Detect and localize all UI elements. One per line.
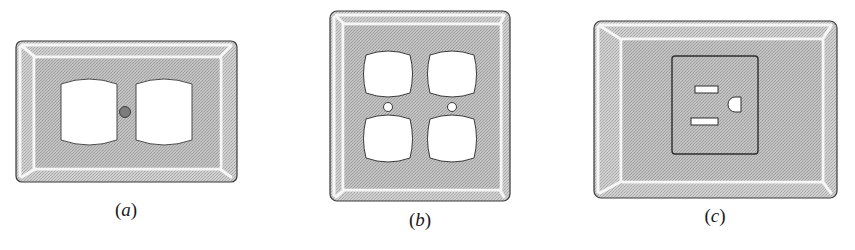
receptacle-opening [136,79,192,145]
receptacle-opening [428,51,477,97]
plate-b-inner [345,26,500,189]
caption-letter: b [415,209,425,230]
receptacle-slot-hot [695,86,718,93]
grounded-receptacle [672,56,758,154]
receptacle-opening [364,115,413,162]
receptacle-opening [364,51,413,97]
caption-a: (a) [115,199,137,221]
receptacle-opening [61,79,117,145]
figure-wall-plates: (a) (b) (c) [0,0,855,250]
caption-b: (b) [409,209,431,231]
caption-paren-close: ) [719,205,725,226]
plate-a [16,41,237,182]
caption-letter: c [711,205,719,226]
caption-paren-close: ) [131,199,137,220]
plate-c [594,21,837,198]
screw-icon [120,107,131,118]
caption-letter: a [121,199,131,220]
screw-icon [448,103,457,112]
plate-b [330,11,510,201]
caption-paren-close: ) [425,209,431,230]
receptacle-opening [428,115,477,162]
receptacle-slot-neutral [691,118,718,125]
ground-hole-icon [728,97,741,112]
caption-c: (c) [704,205,725,227]
screw-icon [384,103,393,112]
